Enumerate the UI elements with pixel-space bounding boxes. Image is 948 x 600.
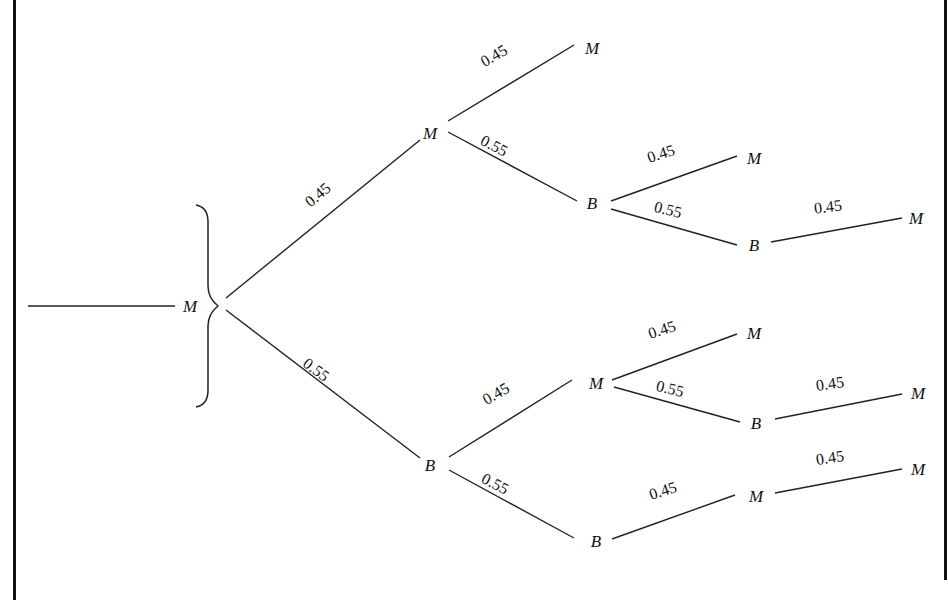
branch-line <box>775 394 902 419</box>
branch-line <box>448 132 577 201</box>
outcome-node-b: B <box>591 533 601 550</box>
outcome-node-m: M <box>747 325 761 342</box>
branch-line <box>771 218 902 242</box>
branch-line <box>775 469 902 493</box>
outcome-node-m: M <box>585 40 599 57</box>
branch-line <box>226 310 420 458</box>
outcome-node-m: M <box>423 125 437 142</box>
branch-line <box>612 495 735 539</box>
outcome-node-b: B <box>425 457 435 474</box>
curly-brace <box>196 205 218 407</box>
outcome-node-m: M <box>747 150 761 167</box>
branch-line <box>448 45 574 121</box>
outcome-node-m: M <box>183 298 197 315</box>
branch-line <box>612 334 737 380</box>
tree-diagram <box>0 0 948 600</box>
branch-line <box>611 156 737 201</box>
outcome-node-m: M <box>909 210 923 227</box>
outcome-node-m: M <box>911 461 925 478</box>
outcome-node-m: M <box>749 488 763 505</box>
probability-label: 0.45 <box>813 197 843 216</box>
outcome-node-b: B <box>587 195 597 212</box>
branch-line <box>449 470 574 538</box>
outcome-node-b: B <box>751 415 761 432</box>
outcome-node-m: M <box>589 375 603 392</box>
outcome-node-b: B <box>749 237 759 254</box>
branch-lines <box>226 45 902 539</box>
outcome-node-m: M <box>911 385 925 402</box>
branch-line <box>226 140 420 298</box>
